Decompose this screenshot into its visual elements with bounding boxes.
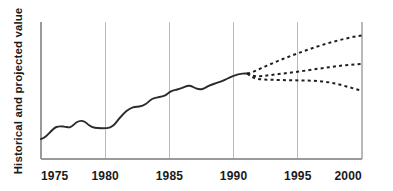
- x-tick-label-1990: 1990: [220, 169, 248, 183]
- series-group: [41, 35, 362, 139]
- series-projection-high-line: [247, 35, 362, 73]
- y-axis-title-group: Historical and projected value: [12, 8, 24, 175]
- line-chart: 1975 1980 1985 1990 1995 2000 Historical…: [0, 0, 393, 191]
- gridlines: [105, 22, 362, 159]
- x-tick-label-1975: 1975: [41, 169, 69, 183]
- x-tick-label-2000: 2000: [335, 169, 363, 183]
- y-axis-title: Historical and projected value: [12, 8, 24, 175]
- x-tick-label-1995: 1995: [284, 169, 312, 183]
- series-projection-low-line: [247, 74, 362, 91]
- x-tick-label-1980: 1980: [91, 169, 119, 183]
- series-historical-line: [41, 73, 247, 139]
- x-tick-label-1985: 1985: [156, 169, 184, 183]
- chart-container: 1975 1980 1985 1990 1995 2000 Historical…: [0, 0, 393, 191]
- x-tick-labels: 1975 1980 1985 1990 1995 2000: [41, 169, 362, 183]
- axes: [41, 22, 362, 159]
